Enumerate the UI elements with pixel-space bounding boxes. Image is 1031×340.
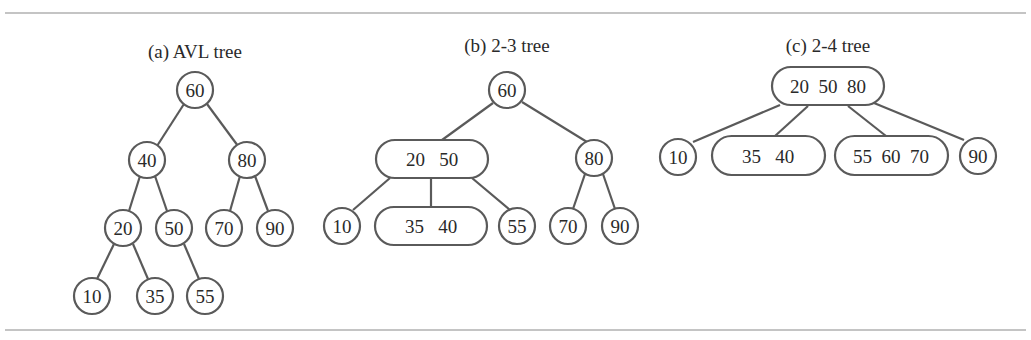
- svg-text:80: 80: [238, 150, 257, 171]
- svg-text:40: 40: [138, 150, 157, 171]
- two-three-node-20-50: 20 50: [376, 140, 488, 178]
- svg-text:80: 80: [585, 148, 604, 169]
- svg-text:55: 55: [196, 286, 215, 307]
- svg-text:50: 50: [165, 218, 184, 239]
- svg-text:10: 10: [669, 147, 688, 168]
- avl-node-90: 90: [257, 210, 293, 246]
- two-four-node-55-60-70: 55 60 70: [835, 136, 948, 175]
- svg-text:35 40: 35 40: [742, 146, 794, 167]
- svg-text:70: 70: [215, 218, 234, 239]
- avl-node-60: 60: [177, 72, 213, 108]
- avl-node-80: 80: [229, 142, 265, 178]
- svg-text:35: 35: [146, 286, 165, 307]
- svg-text:70: 70: [559, 216, 578, 237]
- svg-text:20 50 80: 20 50 80: [790, 76, 866, 97]
- avl-node-10: 10: [74, 278, 110, 314]
- svg-text:60: 60: [186, 80, 205, 101]
- two-three-node-60: 60: [489, 72, 525, 108]
- avl-tree-title: (a) AVL tree: [148, 41, 242, 63]
- svg-text:90: 90: [611, 216, 630, 237]
- two-three-node-80: 80: [576, 140, 612, 176]
- two-four-node-10: 10: [660, 139, 696, 175]
- two-three-node-10: 10: [324, 208, 360, 244]
- svg-text:10: 10: [333, 216, 352, 237]
- svg-text:20 50: 20 50: [406, 149, 458, 170]
- two-three-tree-panel: (b) 2-3 tree 60 20 50 80 10 35 40 55 70 …: [324, 35, 638, 245]
- two-three-node-70: 70: [550, 208, 586, 244]
- avl-node-20: 20: [105, 210, 141, 246]
- two-three-node-90: 90: [602, 208, 638, 244]
- svg-text:35 40: 35 40: [405, 216, 457, 237]
- svg-text:60: 60: [498, 80, 517, 101]
- svg-text:90: 90: [969, 146, 988, 167]
- avl-node-40: 40: [129, 142, 165, 178]
- avl-tree-panel: (a) AVL tree 60 40 80 20 50 70 90 10 35 …: [74, 41, 293, 314]
- two-three-node-35-40: 35 40: [375, 207, 487, 245]
- avl-edges: [97, 104, 268, 279]
- two-four-node-20-50-80: 20 50 80: [772, 67, 884, 105]
- two-four-node-90: 90: [960, 138, 996, 174]
- avl-node-70: 70: [206, 210, 242, 246]
- svg-text:55: 55: [508, 216, 527, 237]
- two-four-node-35-40: 35 40: [712, 136, 825, 175]
- svg-text:10: 10: [83, 286, 102, 307]
- two-four-tree-title: (c) 2-4 tree: [786, 35, 870, 57]
- tree-comparison-figure: (a) AVL tree 60 40 80 20 50 70 90 10 35 …: [0, 0, 1031, 340]
- svg-text:90: 90: [266, 218, 285, 239]
- two-three-node-55: 55: [499, 208, 535, 244]
- avl-node-50: 50: [156, 210, 192, 246]
- two-three-tree-title: (b) 2-3 tree: [464, 35, 549, 57]
- svg-text:55 60 70: 55 60 70: [853, 146, 929, 167]
- avl-node-35: 35: [137, 278, 173, 314]
- svg-text:20: 20: [114, 218, 133, 239]
- two-four-tree-panel: (c) 2-4 tree 20 50 80 10 35 40 55 60 70 …: [660, 35, 996, 175]
- avl-node-55: 55: [187, 278, 223, 314]
